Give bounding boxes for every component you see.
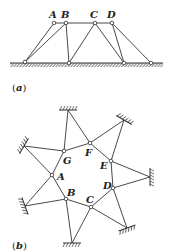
caption-a: (a)	[12, 82, 26, 93]
figure-a: A B C D (a)	[10, 9, 163, 93]
node-a-B	[64, 21, 68, 25]
node-b-E	[109, 159, 113, 163]
label-a-D: D	[106, 9, 116, 20]
label-b-A: A	[56, 171, 65, 182]
caption-b: (b)	[12, 240, 27, 251]
label-a-B: B	[60, 9, 69, 20]
figure-b: A B C D E F G (b)	[12, 106, 154, 251]
node-a-A	[52, 21, 56, 25]
ground-node	[23, 60, 27, 64]
node-a-C	[93, 21, 97, 25]
label-b-B: B	[66, 187, 75, 198]
node-b-F	[88, 141, 92, 145]
fixed-supports-b	[16, 106, 154, 247]
ground-node	[67, 61, 71, 65]
label-a-A: A	[48, 9, 57, 20]
truss-diagram-canvas: A B C D (a)	[0, 0, 169, 252]
label-b-G: G	[63, 155, 72, 166]
ground-support-a	[10, 63, 163, 67]
label-b-D: D	[102, 180, 112, 191]
truss-members-a	[25, 23, 151, 63]
ground-node	[122, 61, 126, 65]
node-b-C	[89, 205, 93, 209]
node-a-D	[110, 21, 114, 25]
node-b-G	[62, 149, 66, 153]
label-b-E: E	[99, 160, 108, 171]
node-b-D	[111, 186, 115, 190]
label-b-F: F	[84, 147, 93, 158]
label-b-C: C	[86, 194, 94, 205]
node-b-A	[50, 173, 54, 177]
ground-node	[149, 61, 153, 65]
label-a-C: C	[90, 9, 98, 20]
truss-members-b	[24, 110, 150, 243]
